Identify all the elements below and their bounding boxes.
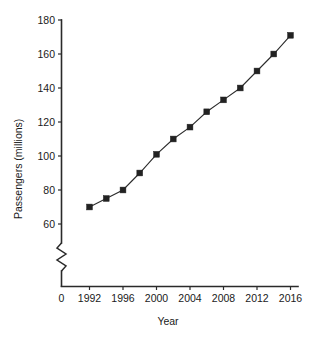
data-point xyxy=(237,85,243,91)
data-point xyxy=(103,196,109,202)
x-tick-label-2016: 2016 xyxy=(279,292,303,304)
x-tick-label-2012: 2012 xyxy=(245,292,269,304)
y-tick-label-140: 140 xyxy=(37,82,55,94)
x-axis-title: Year xyxy=(157,315,179,327)
y-tick-label-100: 100 xyxy=(37,150,55,162)
y-tick-label-160: 160 xyxy=(37,48,55,60)
data-point xyxy=(120,187,126,193)
data-point xyxy=(187,124,193,130)
series-markers-group xyxy=(87,32,294,210)
y-axis-title: Passengers (millions) xyxy=(12,119,24,219)
data-point xyxy=(87,204,93,210)
x-tick-label-origin: 0 xyxy=(59,292,65,304)
x-tick-label-2000: 2000 xyxy=(145,292,169,304)
line-chart: Passengers (millions) 180 160 140 120 10… xyxy=(0,0,316,338)
data-point xyxy=(154,151,160,157)
y-tick-label-180: 180 xyxy=(37,14,55,26)
data-point xyxy=(271,51,277,57)
data-point xyxy=(204,109,210,115)
chart-container: Passengers (millions) 180 160 140 120 10… xyxy=(0,0,316,338)
data-point xyxy=(137,170,143,176)
y-tick-label-80: 80 xyxy=(43,184,55,196)
y-axis-break-icon xyxy=(57,243,66,271)
data-point xyxy=(221,97,227,103)
data-point xyxy=(288,32,294,38)
x-tick-label-1996: 1996 xyxy=(111,292,135,304)
data-point xyxy=(170,136,176,142)
y-tick-label-60: 60 xyxy=(43,218,55,230)
y-tick-label-120: 120 xyxy=(37,116,55,128)
x-tick-label-2004: 2004 xyxy=(178,292,202,304)
x-tick-label-2008: 2008 xyxy=(212,292,236,304)
data-point xyxy=(254,68,260,74)
x-tick-label-1992: 1992 xyxy=(78,292,102,304)
series-line-passengers xyxy=(90,35,291,207)
